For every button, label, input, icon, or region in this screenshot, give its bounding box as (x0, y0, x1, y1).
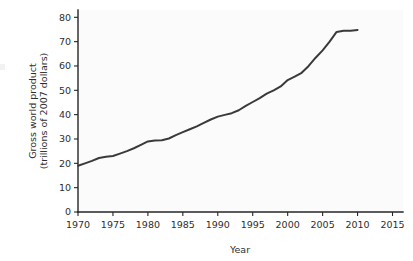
x-tick-label: 2000 (276, 219, 300, 230)
y-tick-label: 70 (59, 36, 71, 47)
y-tick-label: 20 (59, 158, 71, 169)
x-axis-ticks: 1970197519801985199019952000200520102015 (66, 212, 405, 230)
y-tick-label: 40 (59, 109, 71, 120)
x-tick-label: 2015 (380, 219, 404, 230)
x-tick-label: 1985 (171, 219, 195, 230)
x-tick-label: 1990 (206, 219, 230, 230)
y-tick-label: 30 (59, 133, 71, 144)
x-tick-label: 2005 (311, 219, 335, 230)
x-tick-label: 1970 (66, 219, 90, 230)
y-tick-label: 0 (65, 206, 71, 217)
x-tick-label: 2010 (345, 219, 369, 230)
chart-figure: 01020304050607080 1970197519801985199019… (0, 0, 413, 261)
y-tick-label: 10 (59, 182, 71, 193)
x-tick-label: 1980 (136, 219, 160, 230)
x-axis-title: Year (229, 244, 250, 255)
y-axis-title-line-2: (trillions of 2007 dollars) (38, 53, 49, 170)
y-tick-label: 50 (59, 85, 71, 96)
x-tick-label: 1975 (101, 219, 125, 230)
y-tick-label: 80 (59, 12, 71, 23)
plot-area-background (78, 10, 403, 212)
y-axis-title-line-1: Gross world product (27, 63, 38, 159)
y-tick-label: 60 (59, 60, 71, 71)
line-chart-canvas: 01020304050607080 1970197519801985199019… (0, 0, 413, 261)
y-axis-ticks: 01020304050607080 (59, 12, 78, 218)
edge-artifact-mark (0, 64, 5, 70)
x-tick-label: 1995 (241, 219, 265, 230)
